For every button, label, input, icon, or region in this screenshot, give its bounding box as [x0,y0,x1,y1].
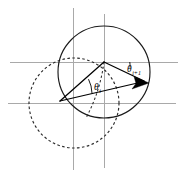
angle-arc-lower [89,79,93,93]
arrow-head-icon [132,77,149,90]
angle-label-theta-i-plus-1: θi+1 [127,64,141,76]
axes-group [8,8,178,170]
theta-subscript-lower: i [99,88,101,94]
vector-angle-diagram: θi θi+1 [0,0,185,176]
angle-label-theta-i: θi [94,82,101,94]
theta-subscript-upper: i+1 [132,70,141,76]
figure-canvas: θi θi+1 [0,0,185,176]
